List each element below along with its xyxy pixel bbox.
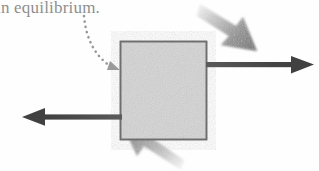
body-box — [121, 42, 207, 140]
caption-text: in equilibrium. — [0, 0, 100, 18]
figure-graphics — [0, 0, 319, 171]
equilibrium-figure: in equilibrium. — [0, 0, 319, 171]
arrow-left — [22, 108, 122, 126]
dotted-curved-arrow — [84, 16, 120, 70]
arrow-right — [206, 56, 314, 73]
